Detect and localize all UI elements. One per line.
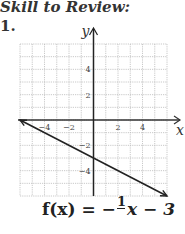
formula-lhs: f(x) = − xyxy=(42,199,116,219)
svg-text:−2: −2 xyxy=(63,123,75,132)
x-axis-label: x xyxy=(176,122,184,138)
svg-text:−2: −2 xyxy=(79,141,91,150)
svg-text:4: 4 xyxy=(85,65,90,74)
tick-labels: −4−22442−2−4xy xyxy=(39,23,184,176)
svg-text:4: 4 xyxy=(140,123,145,132)
svg-text:2: 2 xyxy=(85,91,90,100)
fraction: 1 2 xyxy=(117,196,126,221)
y-axis-label: y xyxy=(81,23,91,39)
svg-text:−4: −4 xyxy=(79,167,91,176)
function-formula: f(x) = − 1 2 x − 3 xyxy=(42,196,175,221)
svg-text:2: 2 xyxy=(115,123,120,132)
formula-rhs: x − 3 xyxy=(127,199,175,219)
fraction-bar xyxy=(117,208,125,209)
fraction-numerator: 1 xyxy=(117,196,126,208)
